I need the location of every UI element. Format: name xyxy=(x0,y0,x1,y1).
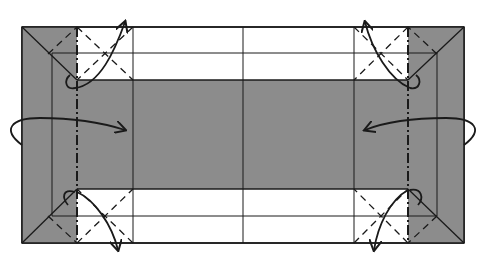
left-gray-strip xyxy=(22,27,77,243)
right-gray-strip xyxy=(408,27,464,243)
origami-diagram xyxy=(0,0,497,274)
